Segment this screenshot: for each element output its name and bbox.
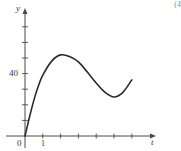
x-tick-label-0: 0 (17, 139, 22, 148)
chart-figure: y t 40 0 1 (4 (0, 0, 181, 151)
axis-ticks (22, 27, 132, 139)
y-axis-label: y (16, 4, 20, 13)
axes (6, 8, 156, 148)
data-curve (25, 55, 132, 136)
x-axis-label: t (151, 138, 154, 147)
x-tick-label-1: 1 (41, 140, 45, 148)
cropped-equation-number: (4 (174, 1, 181, 9)
y-tick-label-40: 40 (9, 69, 18, 78)
plot-area (0, 0, 181, 151)
y-axis-arrowhead (23, 8, 28, 14)
